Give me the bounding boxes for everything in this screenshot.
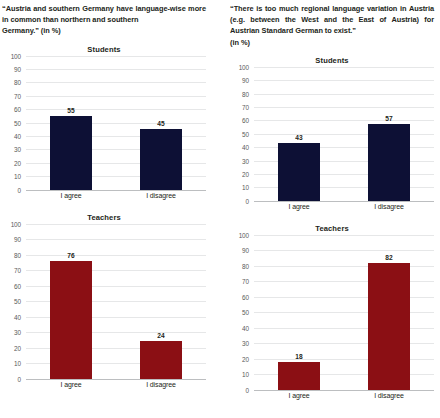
x-axis-category-label: I agree — [254, 392, 344, 399]
bar-value-label: 76 — [50, 252, 91, 259]
y-tick-label: 0 — [246, 197, 249, 204]
x-axis-category-label: I agree — [26, 381, 116, 388]
figure-columns: “Austria and southern Germany have langu… — [0, 0, 440, 404]
y-tick-label: 70 — [14, 267, 21, 274]
x-axis-category-label: I agree — [254, 203, 344, 210]
y-axis-left-teachers: 0102030405060708090100 — [2, 224, 24, 379]
bar-value-label: 24 — [140, 332, 181, 339]
chart-title-left-teachers: Teachers — [2, 212, 206, 224]
bar-value-label: 55 — [50, 107, 91, 114]
y-tick-label: 30 — [14, 329, 21, 336]
x-axis-category-label: I disagree — [344, 203, 434, 210]
y-tick-label: 80 — [14, 251, 21, 258]
bars-right-teachers: 1882 — [254, 235, 434, 390]
bars-left-students: 5545 — [26, 56, 206, 190]
x-axis-category-label: I disagree — [116, 192, 206, 199]
y-tick-label: 90 — [242, 77, 249, 84]
y-tick-label: 20 — [14, 344, 21, 351]
chart-title-right-teachers: Teachers — [230, 223, 434, 235]
y-tick-label: 40 — [14, 133, 21, 140]
bars-right-students: 4357 — [254, 67, 434, 201]
y-tick-label: 0 — [18, 375, 21, 382]
bar: 82 — [368, 263, 409, 390]
y-tick-label: 10 — [242, 371, 249, 378]
plot-inner-left-teachers: 7624 — [26, 224, 206, 379]
question-caption-left: “Austria and southern Germany have langu… — [2, 3, 206, 37]
x-axis-left-teachers: I agreeI disagree — [26, 379, 206, 393]
y-tick-label: 100 — [239, 231, 249, 238]
y-tick-label: 30 — [242, 157, 249, 164]
bar-value-label: 43 — [278, 134, 319, 141]
y-tick-label: 10 — [14, 360, 21, 367]
y-tick-label: 60 — [242, 293, 249, 300]
bar: 24 — [140, 341, 181, 378]
y-tick-label: 60 — [242, 117, 249, 124]
x-axis-category-label: I disagree — [116, 381, 206, 388]
bar: 18 — [278, 362, 319, 390]
plot-area-right-students: 0102030405060708090100 4357 — [230, 67, 434, 201]
question-caption-left-main: “Austria and southern Germany have langu… — [2, 4, 206, 24]
y-tick-label: 30 — [242, 340, 249, 347]
y-tick-label: 90 — [14, 66, 21, 73]
y-tick-label: 40 — [242, 144, 249, 151]
question-caption-right-last: (in %) — [230, 37, 434, 48]
x-axis-right-students: I agreeI disagree — [254, 201, 434, 215]
bars-left-teachers: 7624 — [26, 224, 206, 379]
plot-area-left-teachers: 0102030405060708090100 7624 — [2, 224, 206, 379]
x-axis-category-label: I agree — [26, 192, 116, 199]
y-tick-label: 20 — [242, 171, 249, 178]
y-tick-label: 50 — [242, 130, 249, 137]
y-tick-label: 80 — [242, 262, 249, 269]
bar: 57 — [368, 124, 409, 200]
chart-right-students: Students 0102030405060708090100 4357 I a… — [230, 55, 434, 215]
y-axis-right-students: 0102030405060708090100 — [230, 67, 252, 201]
chart-left-students: Students 0102030405060708090100 5545 I a… — [2, 44, 206, 204]
y-tick-label: 70 — [242, 278, 249, 285]
x-axis-category-label: I disagree — [344, 392, 434, 399]
plot-area-left-students: 0102030405060708090100 5545 — [2, 56, 206, 190]
plot-inner-left-students: 5545 — [26, 56, 206, 190]
y-tick-label: 0 — [246, 386, 249, 393]
question-caption-left-last: Germany.” (in %) — [2, 25, 206, 36]
y-tick-label: 100 — [11, 52, 21, 59]
y-tick-label: 80 — [14, 79, 21, 86]
bar-value-label: 18 — [278, 353, 319, 360]
y-tick-label: 20 — [242, 355, 249, 362]
figure-column-left: “Austria and southern Germany have langu… — [0, 0, 220, 404]
figure-column-right: “There is too much regional language var… — [220, 0, 440, 404]
y-tick-label: 90 — [242, 247, 249, 254]
y-tick-label: 100 — [239, 63, 249, 70]
figure-root: “Austria and southern Germany have langu… — [0, 0, 440, 418]
y-axis-left-students: 0102030405060708090100 — [2, 56, 24, 190]
y-tick-label: 10 — [14, 173, 21, 180]
y-tick-label: 50 — [14, 119, 21, 126]
y-tick-label: 30 — [14, 146, 21, 153]
y-tick-label: 100 — [11, 220, 21, 227]
question-caption-right-main: “There is too much regional language var… — [230, 4, 434, 35]
y-tick-label: 40 — [14, 313, 21, 320]
chart-title-right-students: Students — [230, 55, 434, 67]
plot-area-right-teachers: 0102030405060708090100 1882 — [230, 235, 434, 390]
y-tick-label: 0 — [18, 186, 21, 193]
bar: 43 — [278, 143, 319, 201]
y-tick-label: 50 — [14, 298, 21, 305]
y-tick-label: 80 — [242, 90, 249, 97]
y-tick-label: 60 — [14, 282, 21, 289]
bar: 76 — [50, 261, 91, 379]
y-tick-label: 10 — [242, 184, 249, 191]
y-tick-label: 50 — [242, 309, 249, 316]
chart-left-teachers: Teachers 0102030405060708090100 7624 I a… — [2, 212, 206, 393]
x-axis-right-teachers: I agreeI disagree — [254, 390, 434, 404]
plot-inner-right-teachers: 1882 — [254, 235, 434, 390]
y-tick-label: 70 — [242, 104, 249, 111]
y-tick-label: 60 — [14, 106, 21, 113]
y-axis-right-teachers: 0102030405060708090100 — [230, 235, 252, 390]
bar-value-label: 57 — [368, 115, 409, 122]
question-caption-right: “There is too much regional language var… — [230, 3, 434, 48]
y-tick-label: 70 — [14, 92, 21, 99]
bar: 45 — [140, 129, 181, 189]
chart-title-left-students: Students — [2, 44, 206, 56]
bar: 55 — [50, 116, 91, 190]
y-tick-label: 20 — [14, 159, 21, 166]
bar-value-label: 45 — [140, 120, 181, 127]
